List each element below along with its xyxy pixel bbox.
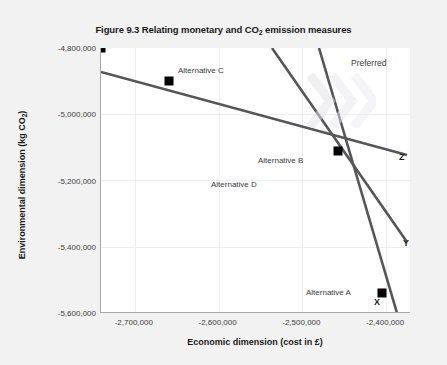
y-tick-label: -5,400,000 — [58, 242, 96, 251]
y-axis-ticks: -4,800,000 -5,000,000 -5,200,000 -5,400,… — [0, 48, 96, 313]
marker-alternative-d[interactable] — [100, 48, 106, 53]
y-tick-label: -5,600,000 — [58, 309, 96, 318]
label-alternative-a: Alternative A — [306, 288, 351, 297]
label-alternative-c: Alternative C — [178, 66, 224, 75]
chart-figure: Figure 9.3 Relating monetary and CO2 emi… — [0, 0, 447, 365]
x-tick-label: -2,700,000 — [115, 318, 153, 327]
plot-area: Alternative A Alternative B Alternative … — [100, 48, 410, 313]
y-tick-label: -4,800,000 — [58, 44, 96, 53]
chart-title-subscript: 2 — [259, 29, 263, 36]
preferred-annotation: Preferred — [351, 58, 386, 68]
x-axis-ticks: -2,700,000 -2,600,000 -2,500,000 -2,400,… — [100, 318, 410, 332]
x-tick-label: -2,400,000 — [366, 318, 404, 327]
chart-title-tail: emission measures — [263, 24, 352, 35]
marker-alternative-b[interactable] — [333, 146, 342, 155]
chart-title: Figure 9.3 Relating monetary and CO2 emi… — [0, 24, 447, 35]
y-tick-label: -5,000,000 — [58, 110, 96, 119]
y-tick-label: -5,200,000 — [58, 176, 96, 185]
x-tick-label: -2,600,000 — [198, 318, 236, 327]
marker-alternative-a[interactable] — [378, 288, 387, 297]
preferred-direction-chevrons — [306, 73, 376, 128]
chart-title-main: Figure 9.3 Relating monetary and CO — [95, 24, 258, 35]
x-axis-label: Economic dimension (cost in £) — [100, 337, 410, 347]
x-tick-label: -2,500,000 — [282, 318, 320, 327]
label-alternative-b: Alternative B — [258, 156, 303, 165]
line-label-x: X — [374, 297, 380, 307]
marker-alternative-c[interactable] — [164, 77, 173, 86]
line-label-y: Y — [403, 238, 409, 248]
line-label-z: Z — [399, 152, 405, 162]
label-alternative-d: Alternative D — [211, 180, 257, 189]
